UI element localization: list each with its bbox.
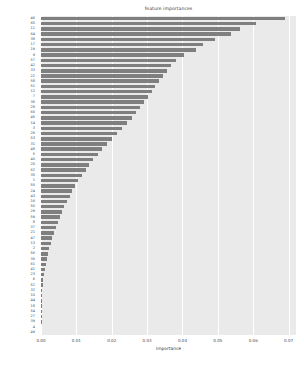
bar[interactable] [41,195,70,199]
bar[interactable] [41,27,240,31]
bar[interactable] [41,69,167,73]
bar[interactable] [41,283,43,287]
bar[interactable] [41,304,42,308]
bar[interactable] [41,200,67,204]
plot-panel [41,16,296,335]
y-axis-ticks: 4665116438171995742332258511273628604514… [0,16,38,335]
bar[interactable] [41,242,51,246]
bar[interactable] [41,59,176,63]
bar[interactable] [41,210,62,214]
bar[interactable] [41,38,215,42]
bar[interactable] [41,17,285,21]
bar[interactable] [41,53,184,57]
bar[interactable] [41,100,144,104]
bar[interactable] [41,111,136,115]
bar[interactable] [41,106,140,110]
bar-series [41,16,296,335]
bar[interactable] [41,252,48,256]
bar[interactable] [41,22,256,26]
bar[interactable] [41,215,60,219]
bar[interactable] [41,90,152,94]
bar[interactable] [41,231,54,235]
bar[interactable] [41,48,196,52]
bar[interactable] [41,294,42,298]
bar[interactable] [41,74,163,78]
bar[interactable] [41,268,45,272]
bar[interactable] [41,132,117,136]
bar[interactable] [41,221,58,225]
bar[interactable] [41,137,112,141]
chart-title: feature importances [41,6,296,12]
bar[interactable] [41,79,159,83]
bar[interactable] [41,168,86,172]
x-tick-label: 0.05 [213,338,222,344]
bar[interactable] [41,189,72,193]
bar[interactable] [41,174,82,178]
bar[interactable] [41,184,75,188]
x-axis-label: importance [41,345,296,352]
bar[interactable] [41,263,46,267]
bar[interactable] [41,205,64,209]
bar[interactable] [41,116,132,120]
bar[interactable] [41,43,203,47]
bar[interactable] [41,226,56,230]
bar[interactable] [41,299,42,303]
bar[interactable] [41,289,42,293]
x-tick-label: 0.03 [143,338,152,344]
bar[interactable] [41,121,127,125]
x-tick-label: 0.00 [36,338,45,344]
bar[interactable] [41,158,93,162]
bar[interactable] [41,32,231,36]
bar[interactable] [41,273,44,277]
bar[interactable] [41,179,78,183]
bar[interactable] [41,147,102,151]
figure-canvas: feature importances 46651164381719957423… [0,0,304,365]
x-tick-label: 0.04 [178,338,187,344]
bar[interactable] [41,163,89,167]
x-tick-label: 0.07 [284,338,293,344]
bar[interactable] [41,153,98,157]
x-tick-label: 0.01 [72,338,81,344]
bar[interactable] [41,278,43,282]
x-tick-label: 0.02 [107,338,116,344]
bar[interactable] [41,85,155,89]
x-tick-label: 0.06 [249,338,258,344]
bar[interactable] [41,95,148,99]
bar[interactable] [41,236,52,240]
bar[interactable] [41,127,122,131]
bar[interactable] [41,142,107,146]
bar[interactable] [41,257,47,261]
bar[interactable] [41,64,171,68]
bar[interactable] [41,247,49,251]
